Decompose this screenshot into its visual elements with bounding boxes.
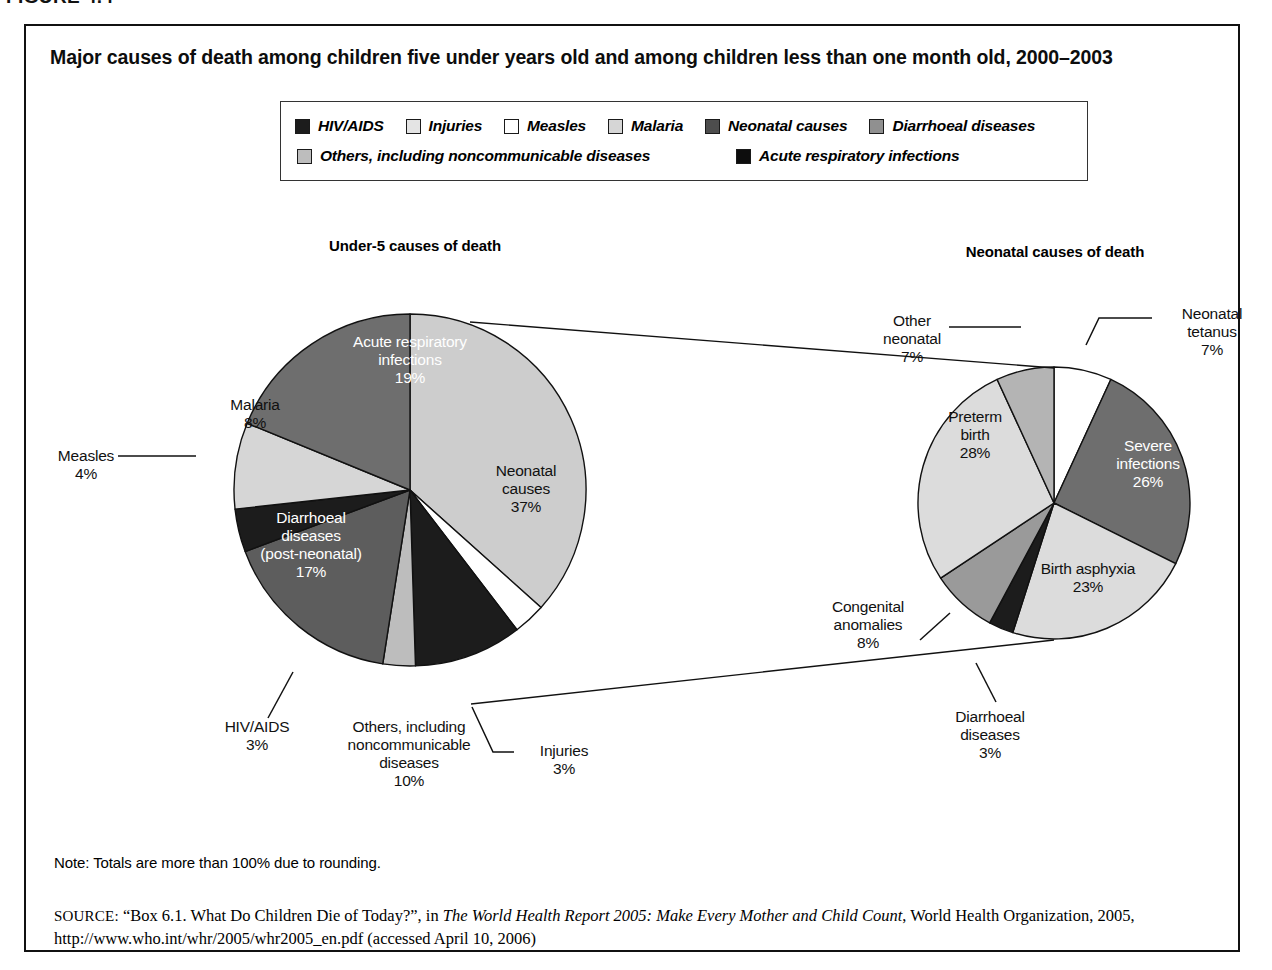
pie-label-value-preterm: 28% <box>921 444 1029 462</box>
pie-label-name-diarr2: Diarrhoealdiseases <box>955 708 1025 743</box>
pie-label-name-preterm: Pretermbirth <box>948 408 1002 443</box>
pie-label-name-ari: Acute respiratoryinfections <box>353 333 467 368</box>
source-part1: “Box 6.1. What Do Children Die of Today?… <box>119 906 443 925</box>
legend-swatch-hiv-aids <box>295 119 310 134</box>
pie-label-value-ari: 19% <box>310 369 510 387</box>
legend-swatch-diarrhoeal-diseases <box>869 119 884 134</box>
pie-label-name-severe: Severeinfections <box>1116 437 1179 472</box>
source-prefix: SOURCE: <box>54 908 119 924</box>
pie-label-name-diarrhoeal: Diarrhoealdiseases(post-neonatal) <box>260 509 361 562</box>
pie-label-value-measles: 4% <box>38 465 134 483</box>
legend-swatch-neonatal-causes <box>705 119 720 134</box>
legend-item-measles[interactable]: Measles <box>504 117 586 135</box>
chart-source: SOURCE: “Box 6.1. What Do Children Die o… <box>54 904 1214 951</box>
legend-item-injuries[interactable]: Injuries <box>406 117 483 135</box>
legend-item-others[interactable]: Others, including noncommunicable diseas… <box>297 147 650 165</box>
pie-label-neonatal-causes: Neonatalcauses 37% <box>461 462 591 516</box>
pie-label-value-diarr2: 3% <box>930 744 1050 762</box>
pie-label-diarrhoeal-diseases-neonatal: Diarrhoealdiseases 3% <box>930 708 1050 762</box>
legend-swatch-injuries <box>406 119 421 134</box>
pie-label-acute-respiratory-infections: Acute respiratoryinfections 19% <box>310 333 510 387</box>
figure-label: FIGURE 4.4 <box>6 0 113 8</box>
pie-label-name-neonatal: Neonatalcauses <box>496 462 556 497</box>
pie-label-name-otherneo: Otherneonatal <box>883 312 941 347</box>
pie-label-hiv-aids: HIV/AIDS 3% <box>198 718 316 754</box>
pie-label-value-otherneo: 7% <box>857 348 967 366</box>
legend-label-diarrhoeal-diseases: Diarrhoeal diseases <box>892 117 1035 135</box>
legend-row-1: HIV/AIDS Injuries Measles Malaria Neonat… <box>295 111 1073 141</box>
pie-label-name-congenital: Congenitalanomalies <box>832 598 904 633</box>
pie-label-value-others: 10% <box>318 772 500 790</box>
pie-label-measles: Measles 4% <box>38 447 134 483</box>
legend-item-hiv-aids[interactable]: HIV/AIDS <box>295 117 384 135</box>
pie-label-name-measles: Measles <box>58 447 114 464</box>
legend-item-acute-respiratory-infections[interactable]: Acute respiratory infections <box>736 147 959 165</box>
legend: HIV/AIDS Injuries Measles Malaria Neonat… <box>280 101 1088 181</box>
pie-label-name-hiv: HIV/AIDS <box>225 718 290 735</box>
pie-label-value-hiv: 3% <box>198 736 316 754</box>
pie-label-malaria: Malaria 8% <box>207 396 303 432</box>
pie-label-other-neonatal: Otherneonatal 7% <box>857 312 967 366</box>
pie-label-name-others: Others, includingnoncommunicablediseases <box>348 718 471 771</box>
source-title-italic: The World Health Report 2005: Make Every… <box>443 906 903 925</box>
pie-heading-under5: Under-5 causes of death <box>255 237 575 254</box>
pie-label-injuries: Injuries 3% <box>516 742 612 778</box>
legend-swatch-others <box>297 149 312 164</box>
chart-title: Major causes of death among children fiv… <box>50 46 1218 69</box>
legend-row-2: Others, including noncommunicable diseas… <box>295 141 1073 171</box>
chart-note: Note: Totals are more than 100% due to r… <box>54 854 381 871</box>
pie-label-name-tetanus: Neonataltetanus <box>1182 305 1242 340</box>
legend-label-neonatal-causes: Neonatal causes <box>728 117 847 135</box>
legend-item-malaria[interactable]: Malaria <box>608 117 683 135</box>
pie-label-congenital-anomalies: Congenitalanomalies 8% <box>802 598 934 652</box>
pie-label-value-injuries: 3% <box>516 760 612 778</box>
pie-label-name-injuries: Injuries <box>540 742 588 759</box>
legend-label-measles: Measles <box>527 117 586 135</box>
legend-swatch-malaria <box>608 119 623 134</box>
pie-label-value-diarrhoeal: 17% <box>218 563 404 581</box>
pie-label-value-tetanus: 7% <box>1157 341 1267 359</box>
pie-label-birth-asphyxia: Birth asphyxia 23% <box>1014 560 1162 596</box>
pie-label-others: Others, includingnoncommunicablediseases… <box>318 718 500 791</box>
legend-item-neonatal-causes[interactable]: Neonatal causes <box>705 117 847 135</box>
pie-label-preterm-birth: Pretermbirth 28% <box>921 408 1029 462</box>
legend-label-acute-respiratory-infections: Acute respiratory infections <box>759 147 959 165</box>
legend-swatch-measles <box>504 119 519 134</box>
figure-container: Major causes of death among children fiv… <box>24 24 1240 952</box>
pie-label-value-neonatal: 37% <box>461 498 591 516</box>
legend-swatch-acute-respiratory-infections <box>736 149 751 164</box>
pie-label-neonatal-tetanus: Neonataltetanus 7% <box>1157 305 1267 359</box>
pie-label-value-severe: 26% <box>1088 473 1208 491</box>
pie-heading-neonatal: Neonatal causes of death <box>905 243 1205 260</box>
pie-label-name-malaria: Malaria <box>230 396 279 413</box>
legend-label-hiv-aids: HIV/AIDS <box>318 117 384 135</box>
legend-label-others: Others, including noncommunicable diseas… <box>320 147 650 165</box>
legend-label-malaria: Malaria <box>631 117 683 135</box>
pie-label-value-congenital: 8% <box>802 634 934 652</box>
pie-label-value-malaria: 8% <box>207 414 303 432</box>
pie-label-value-asphyxia: 23% <box>1014 578 1162 596</box>
legend-label-injuries: Injuries <box>429 117 483 135</box>
legend-item-diarrhoeal-diseases[interactable]: Diarrhoeal diseases <box>869 117 1035 135</box>
pie-label-diarrhoeal-diseases: Diarrhoealdiseases(post-neonatal) 17% <box>218 509 404 582</box>
pie-label-severe-infections: Severeinfections 26% <box>1088 437 1208 491</box>
pie-label-name-asphyxia: Birth asphyxia <box>1041 560 1136 577</box>
